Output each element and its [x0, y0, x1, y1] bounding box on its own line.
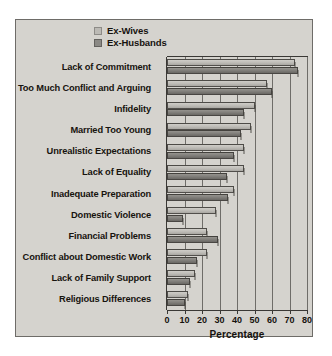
bar-ex-wives [167, 165, 244, 172]
bar-ex-wives [167, 59, 295, 66]
bar-ex-wives [167, 123, 251, 130]
bar-ex-husbands [167, 130, 241, 137]
legend-swatch-ex-wives [94, 27, 102, 35]
tick-label-0: 0 [164, 315, 169, 326]
tick-40 [237, 310, 238, 314]
bar-row: Domestic Violence [167, 205, 307, 226]
category-label: Infidelity [114, 104, 151, 114]
tick-label-40: 40 [232, 315, 242, 326]
category-label: Too Much Conflict and Arguing [18, 83, 151, 93]
legend-label-ex-husbands: Ex-Husbands [107, 37, 167, 48]
bar-row: Religious Differences [167, 289, 307, 310]
tick-10 [185, 310, 186, 314]
category-label: Lack of Equality [82, 167, 151, 177]
bar-row: Unrealistic Expectations [167, 141, 307, 162]
bar-row: Lack of Family Support [167, 268, 307, 289]
tick-70 [290, 310, 291, 314]
bar-row: Lack of Commitment [167, 57, 307, 78]
bar-ex-husbands [167, 152, 234, 159]
tick-20 [202, 310, 203, 314]
bar-ex-husbands [167, 236, 218, 243]
gridline-80 [307, 57, 308, 310]
tick-50 [255, 310, 256, 314]
tick-label-70: 70 [284, 315, 294, 326]
chart-panel: Ex-Wives Ex-Husbands Lack of CommitmentT… [15, 19, 313, 337]
bar-ex-husbands [167, 299, 185, 306]
bar-ex-husbands [167, 215, 183, 222]
bar-row: Married Too Young [167, 120, 307, 141]
legend-item-ex-husbands: Ex-Husbands [94, 37, 167, 48]
category-label: Lack of Commitment [62, 62, 151, 72]
chart-legend: Ex-Wives Ex-Husbands [94, 25, 167, 48]
bar-row: Too Much Conflict and Arguing [167, 78, 307, 99]
bar-ex-husbands [167, 257, 197, 264]
category-label: Lack of Family Support [52, 273, 152, 283]
tick-0 [167, 310, 168, 314]
tick-label-30: 30 [214, 315, 224, 326]
tick-30 [220, 310, 221, 314]
legend-item-ex-wives: Ex-Wives [94, 25, 167, 36]
category-label: Religious Differences [59, 294, 151, 304]
bar-row: Infidelity [167, 99, 307, 120]
bar-ex-husbands [167, 88, 272, 95]
tick-label-10: 10 [179, 315, 189, 326]
category-label: Financial Problems [68, 231, 151, 241]
category-label: Conflict about Domestic Work [23, 252, 151, 262]
category-label: Inadequate Preparation [51, 189, 151, 199]
legend-label-ex-wives: Ex-Wives [107, 25, 148, 36]
tick-60 [272, 310, 273, 314]
bar-row: Financial Problems [167, 226, 307, 247]
category-label: Unrealistic Expectations [47, 146, 151, 156]
bar-ex-husbands [167, 173, 227, 180]
bar-ex-wives [167, 249, 207, 256]
tick-label-80: 80 [302, 315, 312, 326]
bar-ex-wives [167, 80, 267, 87]
bar-ex-wives [167, 228, 207, 235]
bar-ex-husbands [167, 278, 190, 285]
tick-label-50: 50 [249, 315, 259, 326]
tick-label-60: 60 [267, 315, 277, 326]
x-axis-label: Percentage [210, 329, 265, 340]
category-label: Married Too Young [70, 125, 151, 135]
bar-ex-wives [167, 186, 234, 193]
bar-ex-wives [167, 102, 255, 109]
category-label: Domestic Violence [71, 210, 151, 220]
bar-row: Inadequate Preparation [167, 184, 307, 205]
bar-ex-wives [167, 207, 216, 214]
bar-ex-husbands [167, 67, 298, 74]
legend-swatch-ex-husbands [94, 39, 102, 47]
tick-80 [307, 310, 308, 314]
plot-area: Lack of CommitmentToo Much Conflict and … [166, 57, 307, 310]
bar-row: Conflict about Domestic Work [167, 247, 307, 268]
bar-ex-wives [167, 144, 244, 151]
bar-ex-wives [167, 291, 188, 298]
tick-label-20: 20 [197, 315, 207, 326]
bar-ex-wives [167, 270, 195, 277]
bar-row: Lack of Equality [167, 162, 307, 183]
bar-ex-husbands [167, 194, 228, 201]
bar-ex-husbands [167, 109, 244, 116]
